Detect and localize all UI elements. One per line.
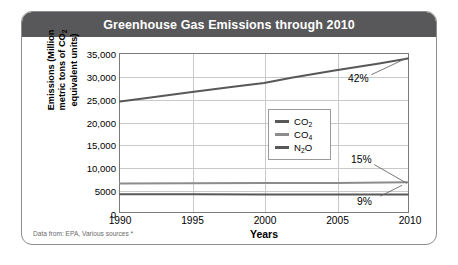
legend-swatch-co4 <box>275 133 289 135</box>
annotation-co2: 42% <box>348 73 369 84</box>
y-axis-title-line-1: Emissions (Million <box>46 30 56 111</box>
y-tick-label: 35,000 <box>87 49 116 60</box>
annotation-leader-line <box>374 165 407 184</box>
legend-item-n2o: N2O <box>275 141 324 154</box>
chart-card: Greenhouse Gas Emissions through 2010 Em… <box>21 11 437 245</box>
y-tick-label: 30,000 <box>87 71 116 82</box>
legend-swatch-co2 <box>275 120 289 122</box>
series-line-co4 <box>120 182 408 183</box>
x-tick-label: 1995 <box>181 215 204 226</box>
chart-footnote: Data from: EPA, Various sources * <box>33 230 133 237</box>
legend-label-co4: CO4 <box>294 129 312 140</box>
legend-label-co2: CO2 <box>294 116 312 127</box>
y-tick-label: 25,000 <box>87 94 116 105</box>
y-axis-title: Emissions (Million metric tons of CO2 eq… <box>41 11 85 155</box>
y-tick-label: 10,000 <box>87 163 116 174</box>
legend-item-co4: CO4 <box>275 128 324 141</box>
annotation-n2o: 9% <box>357 196 372 207</box>
x-axis-title: Years <box>119 228 409 240</box>
legend-swatch-n2o <box>275 146 289 148</box>
x-tick-label: 1990 <box>109 215 132 226</box>
x-tick-label: 2000 <box>254 215 277 226</box>
x-tick-label: 2010 <box>399 215 422 226</box>
legend-label-n2o: N2O <box>294 142 312 153</box>
page-title: Greenhouse Gas Emissions through 2010 <box>103 18 355 32</box>
y-axis-title-line-2: metric tons of CO <box>57 33 67 110</box>
annotation-co4: 15% <box>351 154 372 165</box>
annotation-leader-line <box>371 58 407 75</box>
y-tick-label: 15,000 <box>87 140 116 151</box>
legend: CO2 CO4 N2O <box>268 109 331 160</box>
x-tick-label: 2005 <box>326 215 349 226</box>
y-tick-label: 5000 <box>95 186 116 197</box>
y-axis-title-line-3: equivalent units) <box>69 34 79 107</box>
y-axis-title-text: Emissions (Million metric tons of CO2 eq… <box>46 11 81 155</box>
plot-area: 0500010,00015,00020,00025,00030,00035,00… <box>119 53 409 213</box>
y-axis-title-subscript: 2 <box>61 30 68 34</box>
legend-item-co2: CO2 <box>275 115 324 128</box>
y-tick-label: 20,000 <box>87 117 116 128</box>
